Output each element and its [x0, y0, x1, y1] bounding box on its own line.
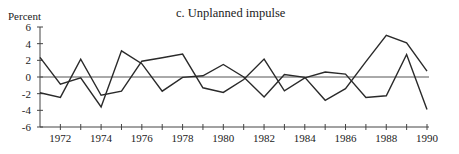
y-tick-label: 4: [26, 38, 32, 50]
y-axis-label: Percent: [8, 10, 41, 22]
x-tick-label: 1984: [294, 132, 317, 144]
x-tick-label: 1972: [49, 132, 71, 144]
series-lines: [40, 35, 427, 109]
y-tick-label: 0: [26, 71, 32, 83]
x-tick-label: 1982: [253, 132, 275, 144]
x-axis: 1972197419761978198019821984198619881990: [40, 124, 439, 144]
y-tick-label: -6: [22, 121, 32, 133]
x-tick-label: 1988: [375, 132, 398, 144]
x-tick-label: 1980: [212, 132, 235, 144]
y-tick-label: 6: [26, 21, 32, 33]
y-axis: 6420-2-4-6: [22, 21, 43, 133]
series-line-1: [40, 35, 427, 107]
y-tick-label: -4: [22, 104, 32, 116]
y-tick-label: -2: [22, 88, 31, 100]
x-tick-label: 1974: [90, 132, 113, 144]
x-tick-label: 1978: [172, 132, 195, 144]
chart-title: c. Unplanned impulse: [176, 6, 286, 20]
series-line-2: [40, 54, 427, 109]
y-tick-label: 2: [26, 54, 32, 66]
x-tick-label: 1976: [131, 132, 154, 144]
x-tick-label: 1986: [335, 132, 358, 144]
line-chart: Percent c. Unplanned impulse 6420-2-4-6 …: [0, 0, 459, 154]
x-tick-label: 1990: [416, 132, 439, 144]
